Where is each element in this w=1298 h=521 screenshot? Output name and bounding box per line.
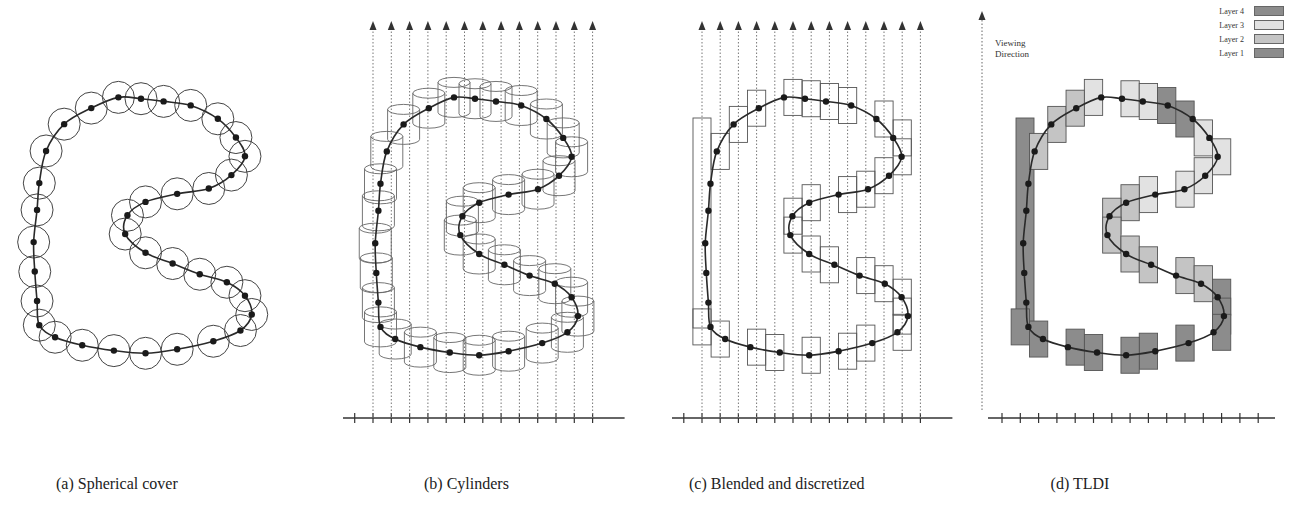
sample-point (714, 148, 720, 154)
sample-point (1025, 181, 1031, 187)
sample-point (905, 313, 911, 319)
sample-point (233, 134, 239, 140)
sample-point (781, 94, 787, 100)
sample-point (138, 96, 144, 102)
ray-arrow-icon (753, 21, 760, 30)
panel-blended-discretized (660, 0, 960, 440)
sample-point (882, 281, 888, 287)
sample-point (787, 232, 793, 238)
ray-arrow-icon (406, 21, 413, 30)
panel-spherical-cover (0, 0, 300, 440)
sample-point (806, 352, 812, 358)
sample-point (472, 96, 478, 102)
cylinder-top (446, 196, 478, 206)
ray-arrow-icon (443, 21, 450, 30)
sample-point (1023, 208, 1029, 214)
sample-point (707, 324, 713, 330)
sample-point (224, 279, 230, 285)
sample-point (835, 348, 841, 354)
sample-point (1181, 186, 1187, 192)
sample-point (1221, 313, 1227, 319)
caption-tldi: (d) TLDI (1000, 475, 1160, 493)
sample-point (1023, 299, 1029, 305)
viewing-direction-label: Viewing Direction (995, 38, 1029, 60)
sample-point (1048, 121, 1054, 127)
sample-point (174, 346, 180, 352)
sample-point (556, 173, 562, 179)
sample-point (848, 102, 854, 108)
sample-point (377, 324, 383, 330)
sample-point (32, 268, 38, 274)
ray-arrow-icon (516, 21, 523, 30)
sample-point (476, 352, 482, 358)
sample-point (705, 299, 711, 305)
ray-arrow-icon (370, 21, 377, 30)
sample-point (1206, 135, 1212, 141)
curve-path (34, 97, 252, 354)
sample-point (505, 348, 511, 354)
spherical-cover-diagram (0, 0, 300, 440)
cylinder-top (530, 99, 562, 109)
cylinder-top (463, 234, 495, 244)
sample-point (1190, 116, 1196, 122)
ray-arrow-icon (881, 21, 888, 30)
sample-point (174, 191, 180, 197)
sample-point (1140, 98, 1146, 104)
cylinder-top (522, 169, 554, 179)
sample-point (802, 96, 808, 102)
sample-point (34, 207, 40, 213)
ray-arrow-icon (534, 21, 541, 30)
sample-point (865, 186, 871, 192)
sample-point (702, 240, 708, 246)
cylinder-top (556, 277, 588, 287)
sample-point (1198, 281, 1204, 287)
cylinder-top (388, 104, 420, 114)
sample-point (756, 105, 762, 111)
sample-point (898, 154, 904, 160)
sample-point (1165, 102, 1171, 108)
sample-point (894, 329, 900, 335)
sample-point (707, 181, 713, 187)
sample-point (890, 135, 896, 141)
sample-point (375, 208, 381, 214)
sample-point (806, 200, 812, 206)
viewing-direction-arrow-icon (979, 11, 986, 20)
sample-point (526, 272, 532, 278)
caption-spherical-cover: (a) Spherical cover (56, 475, 178, 493)
sample-point (372, 240, 378, 246)
sample-point (1202, 173, 1208, 179)
sample-point (169, 260, 175, 266)
sample-point (835, 191, 841, 197)
sample-point (1214, 294, 1220, 300)
sample-point (560, 135, 566, 141)
ray-arrow-icon (844, 21, 851, 30)
cylinder-top (539, 264, 571, 274)
blended-discretized-diagram (660, 0, 960, 440)
sample-point (873, 116, 879, 122)
ray-arrow-icon (790, 21, 797, 30)
legend-label: Layer 3 (1200, 21, 1244, 30)
sample-point (869, 340, 875, 346)
sample-point (856, 272, 862, 278)
sample-point (36, 180, 42, 186)
curve-path (705, 97, 908, 355)
sample-point (1173, 272, 1179, 278)
sample-point (52, 334, 58, 340)
sample-point (373, 270, 379, 276)
cylinder-top (463, 183, 495, 193)
legend-swatch (1254, 34, 1284, 44)
sample-point (789, 213, 795, 219)
sample-point (568, 294, 574, 300)
legend-label: Layer 4 (1200, 7, 1244, 16)
viewing-direction-line-1: Viewing (995, 38, 1029, 49)
ray-arrow-icon (808, 21, 815, 30)
sample-point (886, 173, 892, 179)
sample-point (457, 232, 463, 238)
sample-point (242, 292, 248, 298)
ray-arrow-icon (862, 21, 869, 30)
sample-point (210, 338, 216, 344)
sample-point (426, 105, 432, 111)
sample-point (197, 271, 203, 277)
sample-point (459, 213, 465, 219)
layer-legend: Layer 4 Layer 3 Layer 2 Layer 1 (1200, 4, 1284, 60)
